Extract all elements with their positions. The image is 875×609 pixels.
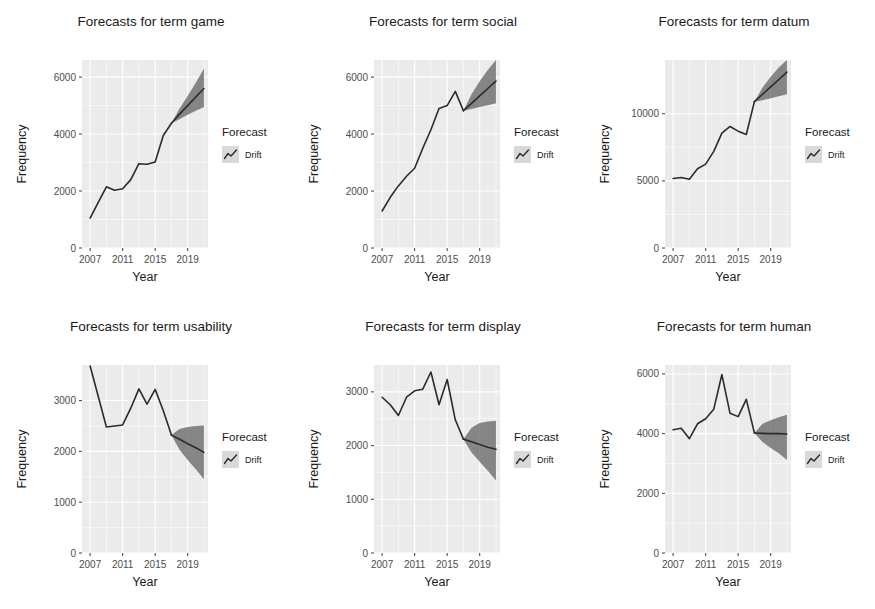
y-axis: 0100020003000 — [345, 386, 373, 558]
y-tick-label: 3000 — [54, 395, 77, 406]
x-tick-label: 2019 — [468, 254, 491, 265]
y-tick-label: 0 — [654, 547, 660, 558]
legend: ForecastDrift — [222, 126, 268, 163]
legend-key-background[interactable] — [222, 451, 239, 468]
x-tick-label: 2011 — [404, 559, 426, 570]
y-tick-label: 0 — [70, 243, 76, 254]
y-axis-title: Frequency — [15, 124, 29, 184]
legend-item-label: Drift — [537, 150, 554, 160]
x-axis-title: Year — [424, 575, 449, 589]
y-tick-label: 6000 — [345, 72, 368, 83]
y-axis: 0200040006000 — [637, 368, 665, 558]
x-tick-label: 2011 — [695, 559, 717, 570]
x-tick-label: 2019 — [760, 254, 783, 265]
forecast-mean-line — [755, 433, 788, 434]
y-tick-label: 10000 — [632, 108, 660, 119]
legend-key-background[interactable] — [514, 451, 531, 468]
x-axis-title: Year — [716, 575, 741, 589]
x-tick-label: 2011 — [695, 254, 717, 265]
legend-title: Forecast — [514, 431, 560, 443]
x-tick-label: 2015 — [436, 559, 459, 570]
y-tick-label: 1000 — [54, 496, 77, 507]
panel-svg-human: Forecasts for term human0200040006000200… — [583, 305, 874, 609]
y-tick-label: 0 — [362, 547, 368, 558]
y-axis: 0500010000 — [632, 108, 666, 253]
y-tick-label: 5000 — [637, 175, 660, 186]
x-axis-title: Year — [424, 270, 449, 284]
y-tick-label: 0 — [70, 547, 76, 558]
legend-key-background[interactable] — [222, 146, 239, 163]
y-tick-label: 0 — [654, 243, 660, 254]
panel-title: Forecasts for term datum — [659, 14, 810, 29]
y-axis-title: Frequency — [598, 428, 612, 488]
panel-title: Forecasts for term human — [657, 319, 812, 334]
legend-item-label: Drift — [245, 150, 262, 160]
forecast-panel-human: Forecasts for term human0200040006000200… — [583, 305, 875, 609]
x-axis: 2007201120152019 — [371, 248, 491, 265]
legend-item-label: Drift — [828, 150, 845, 160]
legend: ForecastDrift — [514, 431, 560, 468]
legend-item-label: Drift — [245, 455, 262, 465]
legend-item-label: Drift — [537, 455, 554, 465]
x-axis-title: Year — [132, 575, 157, 589]
legend-key-background[interactable] — [805, 146, 822, 163]
x-tick-label: 2015 — [436, 254, 459, 265]
x-axis: 2007201120152019 — [79, 248, 199, 265]
x-axis: 2007201120152019 — [662, 248, 782, 265]
legend: ForecastDrift — [805, 126, 851, 163]
panel-svg-game: Forecasts for term game02000400060002007… — [0, 0, 291, 304]
x-axis: 2007201120152019 — [662, 553, 782, 570]
y-tick-label: 4000 — [637, 428, 660, 439]
x-tick-label: 2019 — [177, 559, 200, 570]
x-tick-label: 2007 — [662, 254, 685, 265]
x-tick-label: 2011 — [112, 559, 134, 570]
x-tick-label: 2007 — [371, 559, 394, 570]
x-tick-label: 2015 — [144, 559, 167, 570]
legend-item-label: Drift — [828, 455, 845, 465]
y-tick-label: 2000 — [345, 186, 368, 197]
panel-svg-social: Forecasts for term social020004000600020… — [292, 0, 583, 304]
x-axis: 2007201120152019 — [79, 553, 199, 570]
panel-background — [82, 60, 208, 248]
y-tick-label: 6000 — [54, 72, 77, 83]
y-axis-title: Frequency — [15, 428, 29, 488]
panel-svg-datum: Forecasts for term datum0500010000200720… — [583, 0, 874, 304]
legend-title: Forecast — [514, 126, 560, 138]
x-tick-label: 2019 — [177, 254, 200, 265]
y-tick-label: 4000 — [54, 129, 77, 140]
legend-title: Forecast — [805, 431, 851, 443]
legend-title: Forecast — [222, 126, 268, 138]
legend-key-background[interactable] — [514, 146, 531, 163]
x-axis: 2007201120152019 — [371, 553, 491, 570]
x-tick-label: 2011 — [112, 254, 134, 265]
x-tick-label: 2011 — [404, 254, 426, 265]
y-tick-label: 4000 — [345, 129, 368, 140]
forecast-panel-datum: Forecasts for term datum0500010000200720… — [583, 0, 875, 305]
legend-title: Forecast — [805, 126, 851, 138]
y-axis: 0200040006000 — [54, 72, 82, 254]
x-tick-label: 2019 — [760, 559, 783, 570]
y-axis: 0100020003000 — [54, 395, 82, 558]
y-tick-label: 2000 — [54, 445, 77, 456]
y-tick-label: 2000 — [345, 440, 368, 451]
panel-title: Forecasts for term usability — [70, 319, 232, 334]
x-tick-label: 2007 — [371, 254, 394, 265]
x-tick-label: 2015 — [727, 559, 750, 570]
y-axis: 0200040006000 — [345, 72, 373, 254]
x-tick-label: 2015 — [144, 254, 167, 265]
legend-key-background[interactable] — [805, 451, 822, 468]
legend: ForecastDrift — [222, 431, 268, 468]
forecast-panel-social: Forecasts for term social020004000600020… — [292, 0, 584, 305]
y-tick-label: 0 — [362, 243, 368, 254]
y-axis-title: Frequency — [307, 124, 321, 184]
panel-title: Forecasts for term display — [365, 319, 521, 334]
y-tick-label: 1000 — [345, 493, 368, 504]
legend-title: Forecast — [222, 431, 268, 443]
y-axis-title: Frequency — [307, 428, 321, 488]
legend: ForecastDrift — [514, 126, 560, 163]
x-tick-label: 2007 — [79, 254, 102, 265]
forecast-chart-grid: Forecasts for term game02000400060002007… — [0, 0, 875, 609]
forecast-panel-display: Forecasts for term display01000200030002… — [292, 305, 584, 609]
panel-title: Forecasts for term game — [77, 14, 224, 29]
panel-svg-display: Forecasts for term display01000200030002… — [292, 305, 583, 609]
